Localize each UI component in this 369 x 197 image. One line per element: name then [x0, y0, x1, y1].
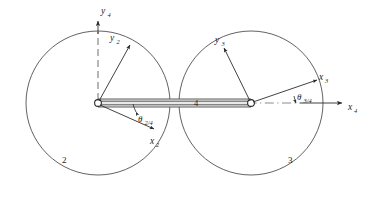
x2-label-subscript: 2: [156, 141, 160, 148]
y3-label-letter: y: [214, 35, 220, 45]
y4-label-subscript: 4: [108, 11, 112, 18]
y2-label-letter: y: [109, 33, 115, 43]
theta-2-4-symbol: θ: [138, 114, 143, 124]
y4-label-letter: y: [100, 6, 106, 16]
theta-2-4-subscript: 2/4: [145, 119, 154, 126]
y3-axis-arrow: [224, 48, 250, 101]
x3-label-subscript: 3: [324, 77, 328, 84]
y3-label-subscript: 3: [221, 40, 225, 47]
label-theta-2-4: θ 2/4: [138, 114, 153, 126]
joint-right-pivot: [248, 100, 255, 107]
theta-3-4-symbol: θ: [297, 92, 302, 102]
theta-3-4-arc: [294, 96, 296, 103]
x3-label-letter: x: [318, 72, 324, 82]
link-2-label: 2: [62, 155, 67, 165]
x2-label-letter: x: [149, 136, 155, 146]
y2-label-subscript: 2: [117, 38, 121, 45]
diagram-canvas: y 4 x 4 y 2 x 2 y 3 x 3 θ 2/4 θ: [0, 0, 369, 197]
link-3-label: 3: [288, 155, 293, 165]
label-x2: x 2: [149, 136, 160, 148]
x4-label-subscript: 4: [354, 107, 358, 114]
y2-axis-arrow: [99, 45, 130, 101]
link-4-bar: [98, 99, 251, 107]
label-y4: y 4: [100, 6, 112, 18]
label-theta-3-4: θ 3/4: [297, 92, 312, 104]
kinematic-diagram: y 4 x 4 y 2 x 2 y 3 x 3 θ 2/4 θ: [0, 0, 369, 197]
label-y2: y 2: [109, 33, 121, 45]
x4-label-letter: x: [347, 102, 353, 112]
label-x4: x 4: [347, 102, 358, 114]
theta-3-4-subscript: 3/4: [303, 97, 313, 104]
